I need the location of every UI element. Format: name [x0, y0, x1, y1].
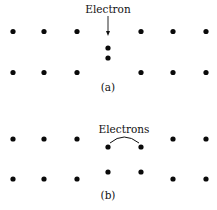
- atom-dot: [203, 176, 208, 181]
- electron-dot: [105, 45, 110, 50]
- atom-dot: [10, 70, 15, 75]
- lattice-top-row-b: [10, 136, 208, 141]
- atom-dot: [41, 176, 46, 181]
- atom-dot: [170, 70, 175, 75]
- atom-dot: [138, 29, 143, 34]
- atom-dot: [41, 29, 46, 34]
- atom-dot: [105, 169, 110, 174]
- atom-dot: [10, 176, 15, 181]
- atom-dot: [41, 136, 46, 141]
- caption-b: (b): [101, 189, 116, 201]
- panel-b: Electrons (b): [10, 123, 208, 201]
- atom-dot: [138, 70, 143, 75]
- electron-dot: [105, 55, 110, 60]
- atom-dot: [203, 29, 208, 34]
- electrons-label: Electrons: [99, 123, 150, 135]
- atom-dot: [203, 70, 208, 75]
- atom-dot: [74, 136, 79, 141]
- electron-label: Electron: [85, 3, 131, 15]
- electron-dot: [105, 144, 110, 149]
- electron-pair-upper: [105, 144, 143, 149]
- panel-a: Electron (a): [10, 3, 208, 93]
- electron-pair-lower: [105, 169, 143, 174]
- atom-dot: [170, 176, 175, 181]
- atom-dot: [74, 176, 79, 181]
- atom-dot: [41, 70, 46, 75]
- electron-dot: [138, 144, 143, 149]
- lattice-bottom-row-b: [10, 176, 208, 181]
- atom-dot: [203, 136, 208, 141]
- atom-dot: [74, 29, 79, 34]
- arrow-icon: [106, 16, 110, 36]
- atom-dot: [10, 29, 15, 34]
- curved-arrow-icon: [110, 137, 139, 143]
- atom-dot: [170, 136, 175, 141]
- atom-dot: [170, 29, 175, 34]
- atom-dot: [74, 70, 79, 75]
- atom-dot: [138, 169, 143, 174]
- lattice-bottom-row-a: [10, 70, 208, 75]
- lattice-diagram: Electron (a) Electrons: [0, 0, 217, 210]
- atom-dot: [10, 136, 15, 141]
- caption-a: (a): [101, 81, 115, 93]
- interstitial-electrons-a: [105, 45, 110, 60]
